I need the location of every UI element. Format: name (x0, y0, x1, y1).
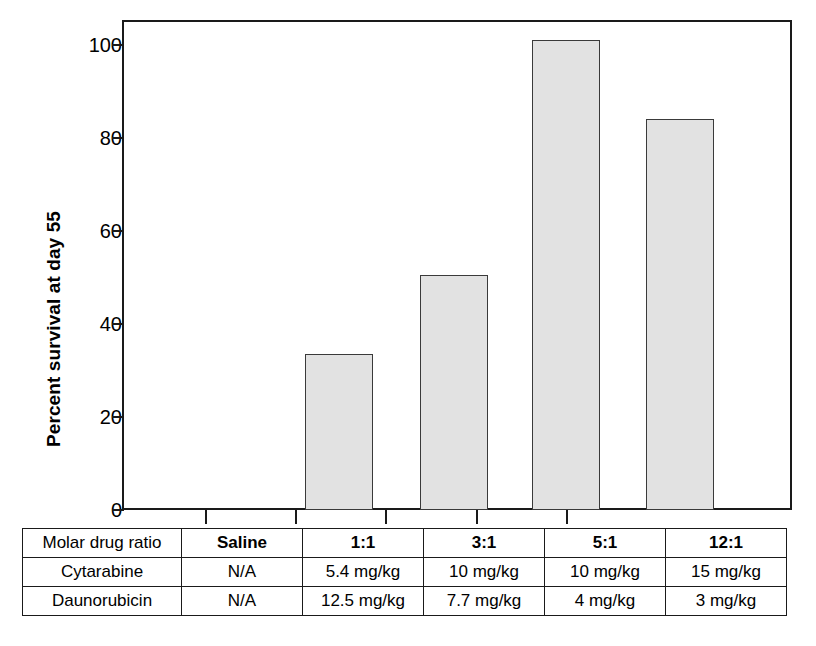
table-row: DaunorubicinN/A12.5 mg/kg7.7 mg/kg4 mg/k… (23, 587, 787, 616)
table-row-label: Molar drug ratio (23, 529, 182, 558)
table-cell: 7.7 mg/kg (424, 587, 545, 616)
bar-12-1 (646, 119, 714, 510)
table-cell: 5.4 mg/kg (303, 558, 424, 587)
table-cell: 4 mg/kg (545, 587, 666, 616)
x-tick-mark-1-1 (295, 510, 297, 524)
table-cell: N/A (182, 587, 303, 616)
table-cell: 12.5 mg/kg (303, 587, 424, 616)
table-body: Molar drug ratioSaline1:13:15:112:1Cytar… (23, 529, 787, 616)
table-cell: 3:1 (424, 529, 545, 558)
x-tick-mark-saline (205, 510, 207, 524)
x-tick-mark-5-1 (476, 510, 478, 524)
drug-ratio-table: Molar drug ratioSaline1:13:15:112:1Cytar… (22, 528, 787, 616)
table-cell: 10 mg/kg (424, 558, 545, 587)
bar-5-1 (532, 40, 600, 510)
table-cell: 12:1 (666, 529, 787, 558)
table-cell: Saline (182, 529, 303, 558)
table-row: CytarabineN/A5.4 mg/kg10 mg/kg10 mg/kg15… (23, 558, 787, 587)
bar-chart-figure: Percent survival at day 55 100806040200 … (0, 0, 816, 646)
x-tick-mark-3-1 (385, 510, 387, 524)
table-row-label: Daunorubicin (23, 587, 182, 616)
table-row: Molar drug ratioSaline1:13:15:112:1 (23, 529, 787, 558)
x-tick-mark-12-1 (566, 510, 568, 524)
table-cell: 5:1 (545, 529, 666, 558)
bar-3-1 (420, 275, 488, 510)
table-cell: 10 mg/kg (545, 558, 666, 587)
bar-1-1 (305, 354, 373, 510)
table-cell: N/A (182, 558, 303, 587)
table-cell: 15 mg/kg (666, 558, 787, 587)
table-cell: 1:1 (303, 529, 424, 558)
table-cell: 3 mg/kg (666, 587, 787, 616)
table-row-label: Cytarabine (23, 558, 182, 587)
